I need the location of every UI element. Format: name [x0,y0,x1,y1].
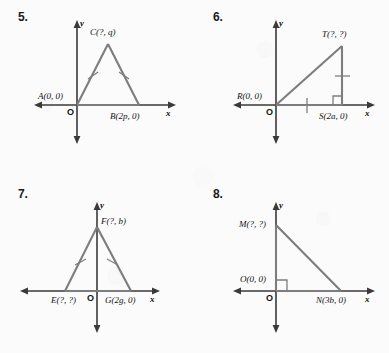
y-axis-label-6: y [279,19,283,28]
coordinate-plane-6 [195,0,389,176]
x-axis-label-5: x [166,109,171,118]
vertex-label-r: R(0, 0) [237,92,262,101]
triangle-rst-6 [276,46,342,105]
x-axis-label-8: x [365,295,370,304]
y-axis-7 [94,202,101,333]
vertex-label-o: O(0, 0) [240,275,266,284]
vertex-label-m: M(?, ?) [239,220,266,229]
vertex-label-f: F(?, b) [101,217,126,226]
vertex-label-c: C(?, q) [90,28,116,37]
x-axis-label-7: x [150,295,155,304]
worksheet-sheet: 5. [0,0,389,353]
right-angle-marker-8 [276,280,287,291]
y-axis-label-8: y [279,201,283,210]
origin-label-5: O [67,108,74,117]
y-axis-label-5: y [80,19,84,28]
vertex-label-a: A(0, 0) [38,92,63,101]
congruence-ticks-6 [307,76,350,113]
vertex-label-t: T(?, ?) [322,30,347,39]
vertex-label-g: G(2g, 0) [105,296,136,305]
origin-label-6: O [266,108,273,117]
origin-label-7: O [87,294,94,303]
problem-6: 6. [195,0,389,176]
triangle-abc-5 [77,44,139,105]
problem-7: 7. [0,177,194,353]
y-axis-6 [273,20,280,144]
x-axis-label-6: x [365,109,370,118]
coordinate-plane-8 [195,177,389,353]
vertex-label-b: B(2p, 0) [110,112,140,121]
coordinate-plane-7 [0,177,194,353]
y-axis-label-7: y [100,201,104,210]
triangle-omn-8 [276,225,341,291]
origin-label-8: O [266,294,273,303]
vertex-label-e: E(?, ?) [51,296,76,305]
right-angle-marker-6 [333,96,342,105]
problem-8: 8. [195,177,389,353]
vertex-label-n: N(3b, 0) [316,296,346,305]
y-axis-5 [74,20,81,144]
triangle-efg-7 [65,227,131,291]
problem-5: 5. [0,0,194,176]
vertex-label-s: S(2a, 0) [319,112,348,121]
